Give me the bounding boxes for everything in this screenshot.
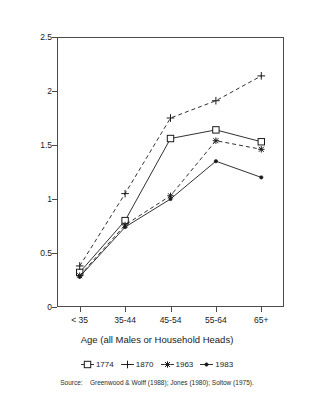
x-tick-label: 55-64 [191,315,241,325]
dot-marker [205,363,208,366]
legend-item-1870[interactable]: 1870 [121,359,154,370]
x-axis-title: Age (all Males or Household Heads) [0,334,314,345]
dot-marker [214,160,217,163]
plus-marker [258,72,266,80]
dot-marker [78,275,81,278]
y-tick-label: 1.5 [22,140,52,150]
legend-marker-asterisk-icon [161,359,174,370]
x-tick-mark [216,307,217,312]
y-tick-label: 2.5 [22,32,52,42]
plot-area [57,37,284,307]
plot-series-canvas [57,37,284,307]
y-tick-label: 0 [22,302,52,312]
source-label: Source: [60,379,82,386]
asterisk-marker [258,146,264,152]
series-line-1983 [80,161,262,277]
asterisk-marker [164,361,170,367]
legend-marker-plus-icon [121,359,134,370]
chart-figure: 00.511.522.5 < 3535-4445-5455-6465+ Age … [0,0,314,405]
plus-marker [121,190,129,198]
dot-marker [169,197,172,200]
legend-label: 1774 [96,360,114,369]
square-marker [258,139,264,145]
legend-item-1983[interactable]: 1983 [200,359,233,370]
square-marker [167,135,173,141]
legend-marker-dot-icon [200,359,213,370]
x-tick-label: < 35 [55,315,105,325]
legend-item-1774[interactable]: 1774 [81,359,114,370]
legend-item-1963[interactable]: 1963 [161,359,194,370]
series-line-1870 [80,76,262,266]
plus-marker [76,262,84,270]
legend-label: 1963 [176,360,194,369]
legend-marker-square-icon [81,359,94,370]
plus-marker [167,114,175,122]
x-tick-mark [261,307,262,312]
plus-marker [212,97,220,105]
chart-title [0,0,314,4]
y-tick-label: 1 [22,194,52,204]
x-tick-mark [80,307,81,312]
legend-label: 1983 [215,360,233,369]
legend-label: 1870 [136,360,154,369]
chart-legend: 1774187019631983 [0,359,314,370]
x-tick-label: 65+ [236,315,286,325]
x-tick-mark [125,307,126,312]
dot-marker [123,225,126,228]
dot-marker [260,176,263,179]
x-tick-label: 45-54 [146,315,196,325]
source-note: Source: Greenwood & Wolff (1988); Jones … [0,379,314,386]
square-marker [84,361,90,367]
square-marker [213,127,219,133]
source-text: Greenwood & Wolff (1988); Jones (1980); … [90,379,254,386]
x-tick-mark [171,307,172,312]
series-line-1774 [80,130,262,273]
asterisk-marker [213,137,219,143]
plus-marker [123,361,131,369]
series-line-1963 [80,141,262,276]
y-tick-mark [52,307,57,308]
y-tick-label: 0.5 [22,248,52,258]
x-tick-label: 35-44 [100,315,150,325]
y-tick-label: 2 [22,86,52,96]
